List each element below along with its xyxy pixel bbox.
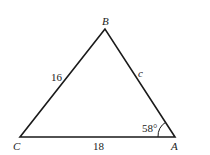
vertex-label-a: A — [170, 140, 178, 152]
triangle-diagram: B C A 16 c 18 58° — [0, 0, 210, 155]
side-label-ca: 18 — [93, 140, 105, 152]
angle-arc-a — [158, 122, 166, 137]
triangle-abc — [20, 29, 175, 137]
angle-label-a: 58° — [142, 122, 157, 134]
vertex-label-c: C — [13, 140, 21, 152]
side-label-ba: c — [138, 67, 143, 79]
side-label-cb: 16 — [51, 71, 63, 83]
vertex-label-b: B — [102, 15, 109, 27]
